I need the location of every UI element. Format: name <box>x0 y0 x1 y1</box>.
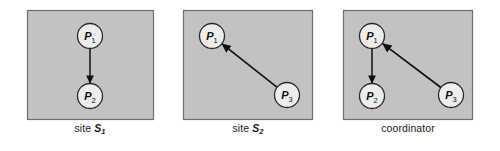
figure-distributed-deadlock-diagram: P1 P2 P1 P3 P1 P2 P3 site S1 site S2 coo… <box>0 0 500 151</box>
caption-symbol: S <box>94 122 101 134</box>
node-p3 <box>275 83 300 108</box>
caption-subscript: 2 <box>259 127 263 136</box>
node-p1 <box>200 24 225 49</box>
caption-prefix: site <box>74 122 94 134</box>
node-p2 <box>78 84 103 109</box>
node-p1 <box>78 24 103 49</box>
node-p2 <box>360 84 385 109</box>
caption-prefix: site <box>232 122 252 134</box>
node-p1 <box>360 24 385 49</box>
panel-coordinator <box>344 11 473 120</box>
caption-subscript: 1 <box>101 127 105 136</box>
caption-site-s2: site S2 <box>232 122 263 134</box>
caption-prefix: coordinator <box>381 122 435 134</box>
caption-symbol: S <box>252 122 259 134</box>
panel-site-s1 <box>28 11 154 120</box>
node-p3 <box>439 83 464 108</box>
caption-coordinator: coordinator <box>381 122 435 134</box>
caption-site-s1: site S1 <box>74 122 105 134</box>
panel-site-s2 <box>184 11 313 120</box>
